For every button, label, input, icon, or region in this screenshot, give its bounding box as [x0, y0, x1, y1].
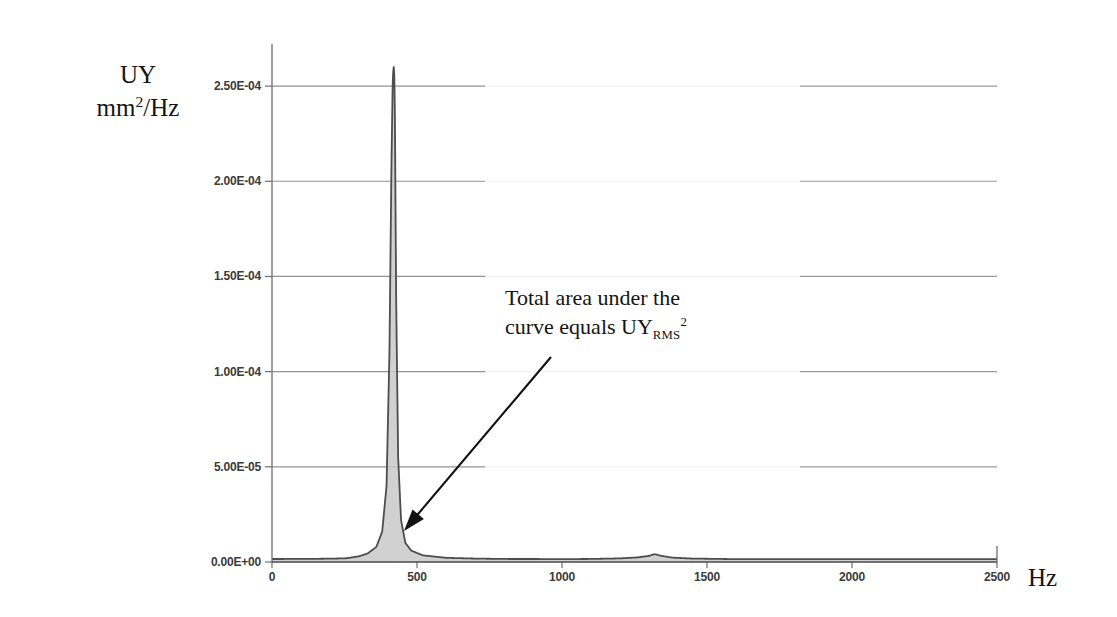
psd-chart-figure: UY mm2/Hz Hz 0.00E+005.00E-051.00E-041.5…	[0, 0, 1117, 617]
annotation-arrow-shaft	[413, 357, 551, 520]
x-axis-title: Hz	[1028, 564, 1057, 592]
annotation-arrow-head	[404, 509, 424, 531]
annotation-superscript-square: 2	[680, 315, 686, 329]
gridlines	[272, 86, 997, 467]
y-axis-title-line2: mm2/Hz	[78, 91, 198, 124]
x-tick-label-3: 1500	[672, 570, 742, 584]
y-axis-unit-base: mm	[97, 94, 136, 121]
y-axis-title-line1: UY	[120, 61, 156, 88]
x-tick-label-1: 500	[382, 570, 452, 584]
y-tick-label-2: 1.00E-04	[169, 365, 261, 379]
y-axis-unit-tail: /Hz	[143, 94, 179, 121]
x-tick-label-0: 0	[237, 570, 307, 584]
y-tick-label-4: 2.00E-04	[169, 174, 261, 188]
x-tick-label-5: 2500	[962, 570, 1032, 584]
annotation-text: Total area under the curve equals UYRMS2	[505, 283, 687, 341]
y-tick-label-0: 0.00E+00	[169, 555, 261, 569]
annotation-line2-prefix: curve equals UY	[505, 314, 653, 339]
annotation-arrow	[404, 357, 551, 531]
y-tick-label-3: 1.50E-04	[169, 269, 261, 283]
annotation-subscript-rms: RMS	[653, 328, 681, 342]
annotation-line-2: curve equals UYRMS2	[505, 312, 687, 341]
annotation-line-1: Total area under the	[505, 283, 687, 312]
x-tick-label-2: 1000	[527, 570, 597, 584]
x-tick-label-4: 2000	[817, 570, 887, 584]
y-tick-label-5: 2.50E-04	[169, 79, 261, 93]
y-tick-label-1: 5.00E-05	[169, 460, 261, 474]
